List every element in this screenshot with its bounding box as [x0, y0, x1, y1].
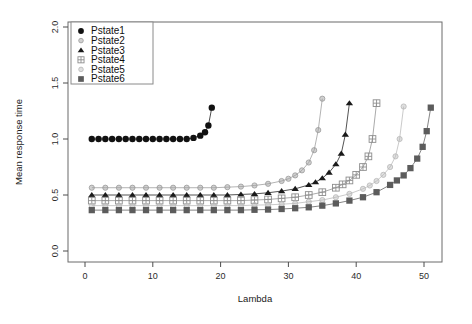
marker-open-circle	[143, 185, 148, 190]
marker-open-circle	[103, 185, 108, 190]
marker-open-circle	[252, 183, 257, 188]
marker-filled-triangle	[346, 100, 353, 105]
series-line-pstate3	[92, 103, 350, 195]
marker-filled-circle	[190, 135, 196, 141]
y-tick-label: 1.5	[50, 77, 60, 90]
marker-filled-square	[224, 207, 230, 213]
marker-open-circle	[116, 185, 121, 190]
marker-filled-square	[143, 207, 149, 213]
marker-filled-triangle	[342, 132, 349, 137]
marker-filled-circle	[109, 136, 115, 142]
marker-open-circle	[79, 38, 84, 43]
marker-filled-circle	[78, 28, 84, 34]
marker-open-circle	[184, 185, 189, 190]
marker-filled-square	[184, 207, 190, 213]
x-tick-label: 30	[283, 271, 293, 281]
marker-open-circle	[320, 197, 325, 202]
marker-filled-square	[428, 105, 434, 111]
marker-filled-circle	[202, 129, 208, 135]
y-axis: 0.00.51.01.52.0	[50, 21, 68, 258]
series-root	[88, 96, 434, 213]
marker-open-circle	[238, 184, 243, 189]
marker-open-circle	[306, 160, 311, 165]
marker-filled-square	[424, 128, 430, 134]
marker-filled-triangle	[325, 170, 332, 175]
marker-open-circle	[279, 178, 284, 183]
marker-open-circle	[320, 96, 325, 101]
marker-open-circle	[381, 172, 386, 177]
marker-filled-square	[407, 165, 413, 171]
marker-filled-circle	[177, 136, 183, 142]
marker-filled-triangle	[305, 182, 312, 187]
marker-open-circle	[157, 185, 162, 190]
legend: Pstate1Pstate2Pstate3Pstate4Pstate5Pstat…	[71, 22, 153, 84]
marker-open-circle	[388, 164, 393, 169]
marker-filled-square	[360, 194, 366, 200]
x-axis-title: Lambda	[238, 293, 273, 304]
marker-filled-circle	[129, 136, 135, 142]
marker-open-circle	[397, 136, 402, 141]
marker-open-circle	[130, 185, 135, 190]
marker-filled-square	[265, 206, 271, 212]
marker-open-circle	[265, 181, 270, 186]
marker-open-circle	[312, 148, 317, 153]
marker-open-circle	[211, 185, 216, 190]
marker-filled-circle	[136, 136, 142, 142]
marker-filled-circle	[102, 136, 108, 142]
marker-open-circle	[393, 154, 398, 159]
marker-filled-circle	[156, 136, 162, 142]
marker-filled-circle	[170, 136, 176, 142]
series-pstate6	[89, 105, 434, 214]
marker-filled-square	[156, 207, 162, 213]
series-line-pstate1	[92, 108, 212, 139]
x-tick-label: 50	[419, 271, 429, 281]
marker-filled-triangle	[312, 179, 319, 184]
marker-open-circle	[225, 185, 230, 190]
marker-filled-square	[387, 182, 393, 188]
marker-filled-circle	[205, 122, 211, 128]
x-tick-label: 0	[82, 271, 87, 281]
x-tick-label: 10	[148, 271, 158, 281]
series-line-pstate2	[92, 99, 323, 188]
marker-open-circle	[171, 185, 176, 190]
marker-filled-square	[116, 207, 122, 213]
marker-filled-circle	[143, 136, 149, 142]
series-pstate1	[89, 104, 215, 142]
marker-open-circle	[293, 173, 298, 178]
marker-open-circle	[198, 185, 203, 190]
series-pstate2	[89, 96, 325, 190]
x-tick-label: 20	[216, 271, 226, 281]
marker-filled-square	[401, 172, 407, 178]
legend-item-label: Pstate6	[91, 73, 125, 84]
y-tick-label: 0.0	[50, 245, 60, 258]
series-line-pstate5	[92, 107, 404, 206]
marker-open-circle	[360, 186, 365, 191]
marker-open-circle	[89, 185, 94, 190]
marker-filled-square	[333, 200, 339, 206]
marker-open-circle	[367, 183, 372, 188]
marker-open-circle	[79, 67, 84, 72]
marker-filled-triangle	[338, 151, 345, 156]
marker-filled-square	[278, 206, 284, 212]
marker-open-circle	[286, 176, 291, 181]
marker-filled-square	[78, 76, 84, 82]
marker-filled-square	[414, 155, 420, 161]
y-tick-label: 2.0	[50, 21, 60, 34]
marker-filled-square	[197, 207, 203, 213]
marker-filled-square	[238, 207, 244, 213]
y-tick-label: 0.5	[50, 189, 60, 202]
marker-filled-circle	[209, 104, 215, 110]
marker-filled-circle	[116, 136, 122, 142]
marker-filled-square	[102, 207, 108, 213]
marker-filled-square	[420, 144, 426, 150]
marker-filled-circle	[184, 136, 190, 142]
marker-filled-square	[346, 197, 352, 203]
marker-filled-circle	[89, 136, 95, 142]
marker-filled-square	[170, 207, 176, 213]
y-tick-label: 1.0	[50, 133, 60, 146]
marker-filled-triangle	[332, 161, 339, 166]
marker-open-circle	[374, 178, 379, 183]
marker-open-circle	[299, 168, 304, 173]
marker-filled-square	[89, 207, 95, 213]
marker-filled-circle	[122, 136, 128, 142]
